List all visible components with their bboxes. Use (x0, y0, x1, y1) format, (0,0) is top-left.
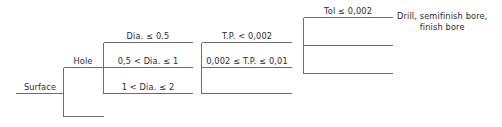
decision-tree-diagram: Surface Hole Dia. ≤ 0.5 0,5 < Dia. ≤ 1 1… (0, 0, 502, 127)
leaf-process-output: Drill, semifinish bore, finish bore (397, 11, 487, 33)
node-label-tp-lt-0-002: T.P. < 0,002 (222, 31, 272, 42)
node-label-surface: Surface (24, 82, 56, 93)
node-label-dia-le-0-5: Dia. ≤ 0.5 (127, 31, 170, 42)
node-label-tp-0-002-to-0-01: 0,002 ≤ T.P. ≤ 0,01 (206, 56, 288, 67)
node-label-dia-1-to-2: 1 < Dia. ≤ 2 (122, 82, 175, 93)
node-label-tol-le-0-002: Tol ≤ 0,002 (324, 6, 372, 17)
leaf-process-line-2: finish bore (397, 22, 487, 33)
node-label-hole: Hole (73, 56, 92, 67)
leaf-process-line-1: Drill, semifinish bore, (397, 11, 487, 22)
node-label-dia-0-5-to-1: 0,5 < Dia. ≤ 1 (118, 56, 179, 67)
